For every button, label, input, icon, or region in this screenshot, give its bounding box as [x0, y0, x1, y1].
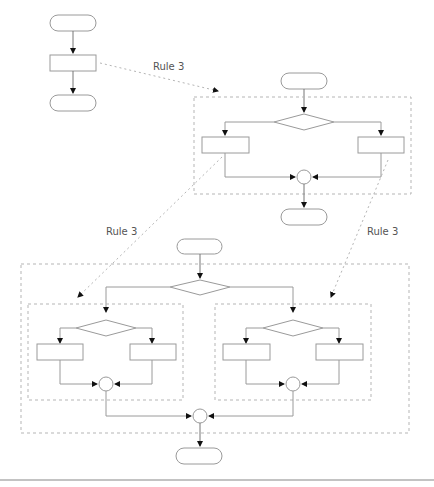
process-box-left-b [130, 344, 176, 360]
replaced-region [194, 97, 411, 194]
inner-region-left [28, 304, 183, 400]
rule-label-right: Rule 3 [367, 226, 398, 237]
process-box-left-a [37, 344, 83, 360]
start-terminator [50, 15, 96, 31]
end-terminator [281, 209, 327, 225]
end-terminator [50, 95, 96, 111]
rule-label-top: Rule 3 [153, 61, 184, 72]
merge-connector-right [286, 377, 300, 391]
process-box [50, 55, 96, 71]
diagram-canvas [0, 0, 434, 487]
original-flow [50, 15, 96, 111]
merge-connector-left [99, 377, 113, 391]
decision-diamond [274, 114, 334, 130]
end-terminator [176, 448, 222, 464]
process-box-right-b [316, 344, 363, 360]
outer-replaced-region [21, 264, 409, 433]
start-terminator [281, 73, 327, 89]
expansion-2 [21, 239, 409, 464]
expansion-1 [194, 73, 411, 225]
merge-connector [297, 170, 311, 184]
start-terminator [177, 239, 222, 254]
merge-connector-final [193, 409, 207, 423]
rule-label-left: Rule 3 [106, 226, 137, 237]
decision-diamond [170, 280, 230, 295]
inner-region-right [215, 304, 371, 400]
process-box-right [358, 137, 404, 153]
process-box-right-a [223, 344, 270, 360]
decision-diamond-left [76, 320, 136, 336]
decision-diamond-right [263, 320, 323, 336]
process-box-left [202, 137, 249, 153]
